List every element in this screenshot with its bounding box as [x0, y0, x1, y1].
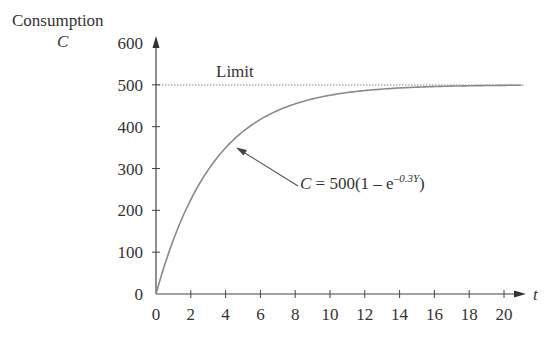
y-tick-label: 300 — [118, 160, 144, 179]
y-axis-symbol: C — [57, 32, 69, 51]
y-tick-label: 200 — [118, 201, 144, 220]
chart: Consumption C Limit t 010020030040050060… — [0, 0, 555, 340]
equation-symbol: C — [300, 174, 312, 193]
x-axis-symbol: t — [533, 285, 539, 304]
limit-label: Limit — [216, 62, 254, 81]
x-tick-label: 8 — [291, 305, 300, 324]
x-tick-label: 6 — [256, 305, 265, 324]
x-tick-label: 0 — [152, 305, 161, 324]
equation-exponent: –0.3Y — [393, 172, 421, 184]
axes — [153, 36, 527, 298]
equation-label: C = 500(1 – e–0.3Y) — [300, 172, 425, 193]
x-tick-label: 2 — [187, 305, 196, 324]
y-tick-label: 0 — [135, 285, 144, 304]
y-ticks: 0100200300400500600 — [118, 34, 161, 304]
equation-end: ) — [419, 174, 425, 193]
x-tick-label: 18 — [461, 305, 478, 324]
annotation-arrow-icon — [236, 148, 247, 156]
x-tick-label: 12 — [356, 305, 373, 324]
equation-body: = 500(1 – e — [311, 174, 393, 193]
x-tick-label: 14 — [391, 305, 409, 324]
annotation-leader-line — [240, 150, 298, 186]
y-axis-arrow-icon — [153, 36, 160, 48]
y-tick-label: 100 — [118, 243, 144, 262]
y-axis-title: Consumption — [12, 11, 104, 30]
x-tick-label: 20 — [496, 305, 513, 324]
y-tick-label: 500 — [118, 76, 144, 95]
x-tick-label: 16 — [426, 305, 443, 324]
y-tick-label: 400 — [118, 118, 144, 137]
x-tick-label: 4 — [221, 305, 230, 324]
x-axis-arrow-icon — [514, 291, 526, 298]
x-tick-label: 10 — [322, 305, 339, 324]
y-tick-label: 600 — [118, 34, 144, 53]
x-ticks: 02468101214161820 — [152, 290, 513, 324]
